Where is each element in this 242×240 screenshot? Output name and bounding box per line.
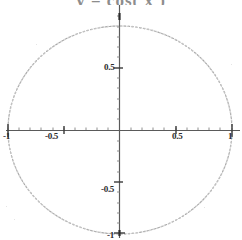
scan-noise (14, 219, 15, 220)
y-tick-label-neg-half: -0.5 (101, 184, 114, 194)
x-tick-label-neg-half: -0.5 (45, 131, 58, 141)
scan-noise (204, 207, 205, 208)
plot-canvas (0, 0, 242, 240)
scan-noise (231, 64, 232, 65)
y-tick-label-neg-one: -1 (107, 230, 114, 240)
y-tick-label-pos-half: 0.5 (104, 62, 114, 72)
x-axis-minor-ticks (8, 128, 220, 131)
x-tick-label-neg-one: -1 (3, 131, 10, 141)
scan-noise (36, 44, 37, 45)
y-axis-minor-ticks (117, 16, 120, 223)
scan-noise (6, 206, 7, 207)
x-tick-label-pos-one: 1 (228, 131, 232, 141)
x-tick-label-pos-half: 0.5 (172, 131, 182, 141)
